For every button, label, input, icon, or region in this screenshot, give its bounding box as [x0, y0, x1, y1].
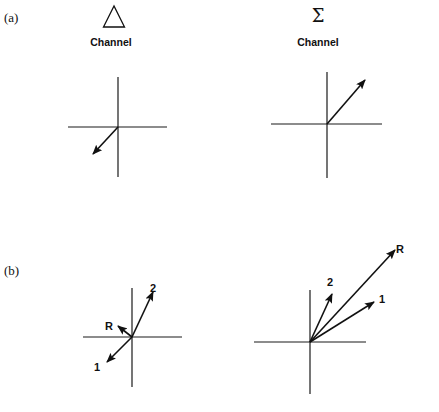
- sum-signal-vector-arrow: [327, 80, 365, 124]
- part-a-label: (a): [4, 10, 18, 25]
- delta-resultant-arrow: [118, 326, 132, 337]
- delta-channel-vector-sum: 2 R 1: [83, 282, 182, 387]
- sum-vector-1-label: 1: [379, 293, 385, 305]
- part-b-label: (b): [4, 263, 19, 278]
- delta-channel-plot: [68, 77, 167, 177]
- triangle-delta-icon: [104, 6, 125, 27]
- delta-resultant-label: R: [105, 320, 113, 332]
- delta-signal-vector-arrow: [93, 127, 118, 154]
- delta-channel-label: Channel: [90, 36, 132, 48]
- sum-vector-2-label: 2: [327, 276, 333, 288]
- part-b: (b) 2 R 1 2 R 1: [4, 243, 404, 394]
- part-a: (a) Channel Σ Channel: [4, 5, 382, 178]
- sigma-icon: Σ: [312, 5, 325, 26]
- delta-vector-1-label: 1: [94, 361, 100, 373]
- delta-channel-header: Channel: [90, 6, 132, 48]
- sum-channel-label: Channel: [297, 36, 339, 48]
- delta-vector-2-arrow: [132, 292, 153, 337]
- sum-channel-header: Σ Channel: [297, 5, 339, 48]
- sum-channel-plot: [271, 72, 382, 178]
- sum-resultant-label: R: [396, 243, 404, 255]
- phasor-diagram: (a) Channel Σ Channel (b): [0, 0, 439, 412]
- delta-vector-2-label: 2: [150, 282, 156, 294]
- delta-vector-1-arrow: [107, 337, 132, 362]
- sum-channel-vector-sum: 2 R 1: [254, 243, 404, 394]
